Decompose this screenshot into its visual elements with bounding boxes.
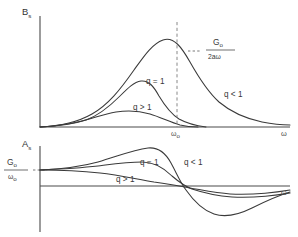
- top-x-axis-label: ω: [281, 129, 287, 138]
- top-annotation-numerator: Go: [213, 37, 224, 48]
- top-label-q-lt-1: q < 1: [224, 90, 243, 99]
- panel-top: Bs ω ωo Go 2aω q = 1 q < 1 q > 1: [22, 6, 290, 138]
- plot-svg: Bs ω ωo Go 2aω q = 1 q < 1 q > 1 As ω: [0, 0, 298, 237]
- figure-container: Bs ω ωo Go 2aω q = 1 q < 1 q > 1 As ω: [0, 0, 298, 237]
- top-peak-value-annotation: Go 2aω: [206, 37, 235, 60]
- bottom-curve-q-gt-1: [40, 170, 290, 194]
- top-curve-q-gt-1: [40, 111, 198, 127]
- top-label-q-gt-1: q > 1: [133, 103, 152, 112]
- panel-bottom: As ω Go ωo q = 1 q < 1 q > 1: [4, 138, 290, 232]
- top-label-q-eq-1: q = 1: [146, 77, 165, 86]
- top-y-axis-label: Bs: [22, 6, 31, 18]
- bottom-curve-q-lt-1: [40, 148, 290, 216]
- bottom-label-q-lt-1: q < 1: [184, 158, 203, 167]
- bottom-level-value-annotation: Go ωo: [4, 157, 28, 182]
- bottom-level-numerator: Go: [7, 157, 18, 168]
- bottom-y-axis-label: As: [22, 138, 31, 150]
- top-annotation-denominator: 2aω: [208, 53, 222, 60]
- bottom-level-denominator: ωo: [8, 173, 17, 182]
- bottom-label-q-eq-1: q = 1: [140, 158, 159, 167]
- bottom-x-axis-label: ω: [281, 188, 287, 197]
- top-curve-q-lt-1: [40, 39, 290, 127]
- bottom-curve-q-eq-1: [40, 162, 290, 197]
- top-curve-q-eq-1: [40, 81, 206, 127]
- bottom-label-q-gt-1: q > 1: [116, 175, 135, 184]
- top-resonance-label: ωo: [171, 130, 180, 139]
